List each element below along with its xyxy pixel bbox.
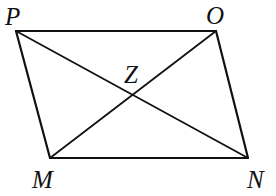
vertex-label-n: N <box>246 166 265 193</box>
parallelogram-diagram: P O Z M N <box>0 0 276 196</box>
intersection-label-z: Z <box>124 61 139 88</box>
vertex-label-o: O <box>206 2 224 29</box>
vertex-label-p: P <box>4 3 20 30</box>
side-mp <box>16 31 50 158</box>
vertex-label-m: M <box>31 166 54 193</box>
diagonal-mo <box>50 31 216 158</box>
side-on <box>216 31 248 158</box>
